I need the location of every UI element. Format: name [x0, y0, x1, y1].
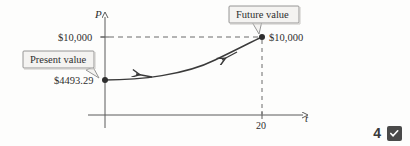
- present-value-point: [102, 77, 108, 83]
- curve-direction-arrows: [136, 52, 237, 77]
- x-tick-20: 20: [256, 111, 266, 131]
- present-future-value-figure: t P 20 $10,000 $4493.29 $10,000 Present …: [0, 0, 410, 146]
- x-tick-label-20: 20: [256, 120, 266, 131]
- future-value-callout: Future value: [229, 6, 300, 34]
- y-label-bottom: $4493.29: [54, 75, 93, 86]
- x-axis: t: [88, 112, 309, 124]
- y-label-top: $10,000: [58, 32, 92, 43]
- x-axis-label: t: [305, 112, 309, 124]
- check-icon[interactable]: [387, 126, 402, 141]
- value-curve: [105, 37, 262, 80]
- present-value-callout: Present value: [23, 51, 99, 78]
- future-value-point: [259, 34, 265, 40]
- y-axis-label: P: [94, 8, 102, 20]
- page-number: 4: [373, 126, 381, 140]
- future-value-callout-label: Future value: [236, 9, 289, 20]
- y-axis: P: [94, 8, 105, 128]
- future-value-amount-label: $10,000: [269, 32, 303, 43]
- present-value-callout-label: Present value: [30, 54, 87, 65]
